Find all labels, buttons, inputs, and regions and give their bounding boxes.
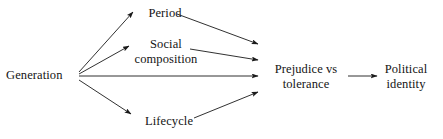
node-political-label-line-2: identity: [378, 77, 434, 92]
node-lifecycle-label: Lifecycle: [134, 114, 204, 129]
node-prejudice-label-line-1: Prejudice vs: [262, 62, 350, 77]
node-period-label: Period: [136, 6, 194, 21]
node-lifecycle: Lifecycle: [134, 114, 204, 129]
node-prejudice-label-line-2: tolerance: [262, 77, 350, 92]
node-prejudice-vs-tolerance: Prejudice vs tolerance: [262, 62, 350, 92]
edge-generation-to-period: [79, 12, 133, 72]
diagram-canvas: Generation Period Social composition Lif…: [0, 0, 443, 139]
node-social-composition: Social composition: [128, 37, 204, 67]
node-generation-label: Generation: [6, 68, 80, 83]
node-social-label-line-1: Social: [128, 37, 204, 52]
node-political-label-line-1: Political: [378, 62, 434, 77]
node-period: Period: [136, 6, 194, 21]
edge-generation-to-lifecycle: [79, 80, 131, 114]
node-generation: Generation: [6, 68, 80, 83]
node-political-identity: Political identity: [378, 62, 434, 92]
edge-generation-to-social: [79, 46, 129, 74]
node-social-label-line-2: composition: [128, 52, 204, 67]
